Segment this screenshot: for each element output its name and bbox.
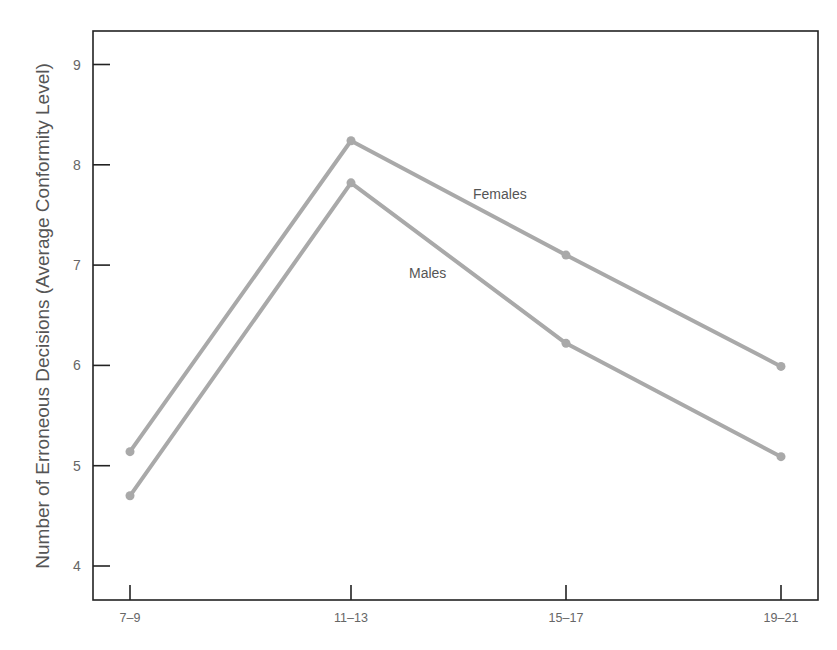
- data-point: [126, 491, 135, 500]
- plot-frame: [93, 31, 818, 600]
- y-tick-label: 9: [73, 57, 81, 73]
- y-tick-label: 6: [73, 357, 81, 373]
- series-males: Males: [126, 178, 786, 500]
- series-label: Males: [409, 265, 446, 281]
- data-point: [777, 452, 786, 461]
- data-point: [126, 447, 135, 456]
- line-chart: 456789 7–911–1315–1719–21 FemalesMales N…: [0, 0, 837, 650]
- y-tick-label: 5: [73, 458, 81, 474]
- plot-border: [93, 31, 818, 600]
- x-tick-label: 7–9: [120, 611, 141, 625]
- x-tick-label: 11–13: [334, 611, 368, 625]
- series-line: [130, 183, 781, 496]
- y-tick-label: 4: [73, 558, 81, 574]
- data-point: [347, 178, 356, 187]
- series-group: FemalesMales: [126, 136, 786, 500]
- data-point: [562, 339, 571, 348]
- x-tick-label: 15–17: [549, 611, 584, 625]
- y-tick-label: 8: [73, 157, 81, 173]
- data-point: [777, 362, 786, 371]
- y-tick-label: 7: [73, 257, 81, 273]
- data-point: [347, 136, 356, 145]
- series-label: Females: [473, 186, 527, 202]
- y-axis: 456789: [73, 57, 110, 575]
- x-axis: 7–911–1315–1719–21: [120, 585, 799, 625]
- y-axis-label: Number of Erroneous Decisions (Average C…: [32, 63, 53, 568]
- x-tick-label: 19–21: [764, 611, 799, 625]
- data-point: [562, 251, 571, 260]
